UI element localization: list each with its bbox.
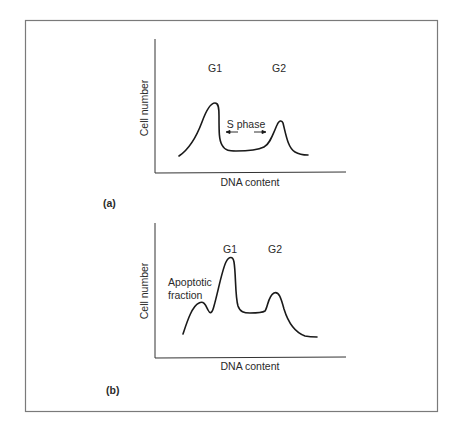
g1-label: G1 bbox=[208, 62, 222, 74]
y-axis-label: Cell number bbox=[138, 79, 150, 136]
panel-a: G1 G2 S phase Cell number DNA content (a… bbox=[103, 39, 346, 209]
apoptotic-label-line2: fraction bbox=[168, 289, 203, 301]
g2-label: G2 bbox=[268, 243, 282, 255]
panel-b: G1 G2 Apoptotic fraction Cell number DNA… bbox=[106, 223, 346, 396]
y-axis-label: Cell number bbox=[138, 262, 150, 319]
x-axis bbox=[155, 172, 346, 173]
x-axis bbox=[155, 357, 346, 358]
x-axis-label: DNA content bbox=[221, 360, 280, 372]
figure-frame bbox=[26, 21, 438, 412]
s-phase-label: S phase bbox=[227, 118, 266, 130]
g2-label: G2 bbox=[272, 62, 286, 74]
apoptotic-label-line1: Apoptotic bbox=[168, 276, 212, 288]
panel-label-b: (b) bbox=[106, 384, 119, 396]
histogram-curve bbox=[183, 258, 317, 338]
g1-label: G1 bbox=[223, 243, 237, 255]
panel-label-a: (a) bbox=[103, 197, 116, 209]
s-phase-arrows bbox=[226, 131, 266, 134]
figure: G1 G2 S phase Cell number DNA content (a… bbox=[0, 0, 457, 432]
x-axis-label: DNA content bbox=[221, 176, 280, 188]
